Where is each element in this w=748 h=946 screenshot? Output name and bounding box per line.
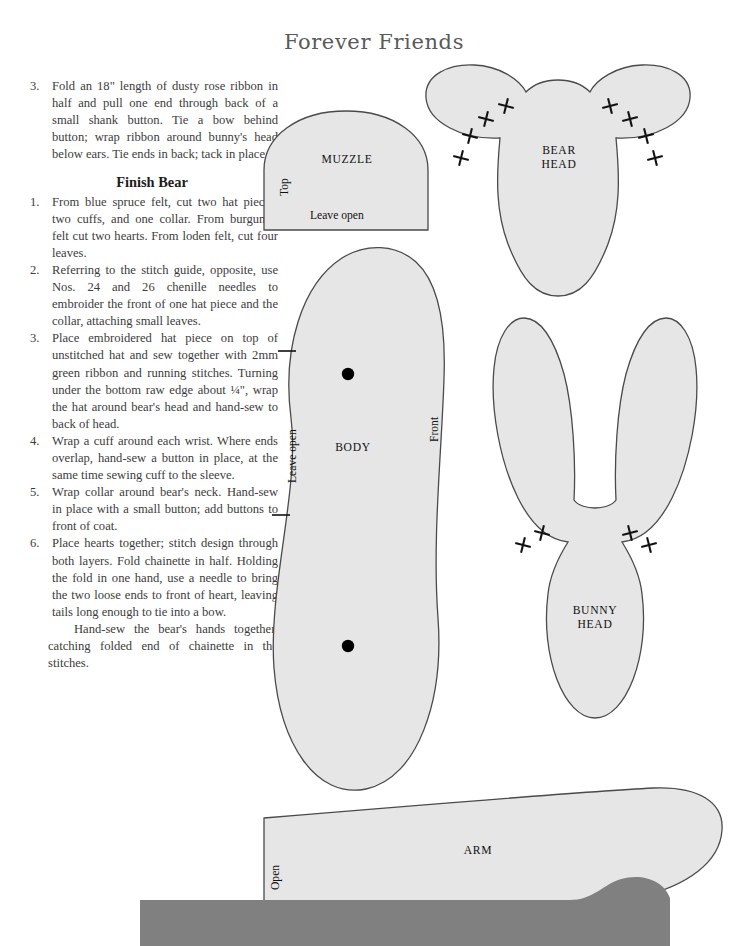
- instructions-column: 3. Fold an 18" length of dusty rose ribb…: [26, 78, 278, 672]
- step-text: Wrap collar around bear's neck. Hand-sew…: [52, 484, 278, 535]
- instruction-step-3: 3. Place embroidered hat piece on top of…: [26, 330, 278, 433]
- step-text: Place embroidered hat piece on top of un…: [52, 330, 278, 433]
- arm-label: ARM: [443, 844, 513, 858]
- muzzle-label: MUZZLE: [292, 153, 402, 167]
- instruction-step-4: 4. Wrap a cuff around each wrist. Where …: [26, 433, 278, 484]
- muzzle-edge-label-top: Top: [278, 178, 291, 196]
- pattern-piece-bunny-head: BUNNY HEAD: [480, 312, 710, 762]
- pattern-piece-body: BODY Leave open Front: [256, 238, 471, 798]
- body-dot-upper: [342, 368, 354, 380]
- bunny-head-label: BUNNY HEAD: [548, 604, 642, 632]
- pattern-piece-muzzle: MUZZLE Top Leave open: [262, 108, 432, 233]
- step-number: 6.: [26, 535, 52, 552]
- step-number: 2.: [26, 262, 52, 279]
- step-number: 3.: [26, 330, 52, 347]
- step-number: 4.: [26, 433, 52, 450]
- step-text: Referring to the stitch guide, opposite,…: [52, 262, 278, 330]
- body-dot-lower: [342, 640, 354, 652]
- step-text: Place hearts together; stitch design thr…: [52, 535, 278, 620]
- body-edge-label-front: Front: [428, 417, 441, 442]
- bear-head-label: BEAR HEAD: [513, 144, 605, 172]
- step-number: 3.: [26, 78, 52, 95]
- instruction-step-2: 2. Referring to the stitch guide, opposi…: [26, 262, 278, 330]
- instruction-step-continued: 3. Fold an 18" length of dusty rose ribb…: [26, 78, 278, 163]
- step-number: 5.: [26, 484, 52, 501]
- step-text: From blue spruce felt, cut two hat piece…: [52, 194, 278, 262]
- step-text: Wrap a cuff around each wrist. Where end…: [52, 433, 278, 484]
- body-label: BODY: [313, 441, 393, 455]
- page-title: Forever Friends: [0, 30, 748, 54]
- step-number: 1.: [26, 194, 52, 211]
- bunny-head-outline: [493, 318, 697, 718]
- instruction-step-5: 5. Wrap collar around bear's neck. Hand-…: [26, 484, 278, 535]
- body-outline: [273, 248, 444, 791]
- instruction-step-1: 1. From blue spruce felt, cut two hat pi…: [26, 194, 278, 262]
- instruction-step-6: 6. Place hearts together; stitch design …: [26, 535, 278, 620]
- partial-piece-outline: [140, 877, 670, 946]
- closing-paragraph: Hand-sew the bear's hands together, catc…: [48, 621, 278, 672]
- body-edge-label-leave-open: Leave open: [286, 429, 299, 483]
- section-heading: Finish Bear: [26, 174, 278, 191]
- pattern-piece-partial-bottom: [140, 876, 748, 946]
- muzzle-edge-label-leave-open: Leave open: [310, 209, 364, 222]
- step-text: Fold an 18" length of dusty rose ribbon …: [52, 78, 278, 163]
